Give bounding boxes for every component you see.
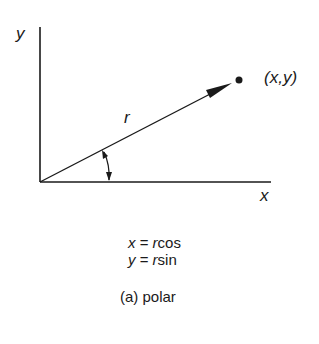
figure-caption: (a) polar <box>120 288 176 305</box>
point-dot <box>236 77 243 84</box>
equation-x: x = rcos <box>128 235 181 251</box>
vector-label: r <box>124 108 130 128</box>
angle-arrow-top-icon <box>102 150 108 159</box>
arrowhead-icon <box>206 83 232 98</box>
point-label: (x,y) <box>264 68 297 88</box>
radius-vector <box>40 92 214 182</box>
x-axis-label: x <box>260 186 269 206</box>
angle-arrow-bottom-icon <box>106 172 112 181</box>
equation-y: y = rsin <box>128 252 177 268</box>
y-axis-label: y <box>16 24 25 44</box>
